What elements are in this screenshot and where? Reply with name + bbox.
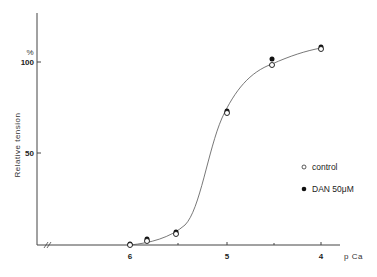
series-control [128,47,324,248]
x-tick-label-5: 5 [225,252,230,261]
chart-canvas: 100 50 % Relative tension 6 5 4 p Ca [0,0,377,277]
data-point [319,47,324,52]
x-axis-label: p Ca [344,252,363,261]
data-point [145,239,150,244]
x-tick-label-6: 6 [128,252,133,261]
data-point [270,57,275,62]
y-tick-label-50: 50 [25,149,34,158]
legend-label-control: control [312,162,338,172]
data-point [225,111,230,116]
series-dan [128,45,324,247]
legend: control DAN 50μM [302,162,354,194]
data-point [174,232,179,237]
open-circle-icon [302,165,306,169]
filled-circle-icon [302,187,307,192]
fit-curve [130,48,321,245]
y-tick-label-100: 100 [21,58,35,67]
y-axis-label: Relative tension [13,113,22,178]
x-tick-label-4: 4 [319,252,324,261]
y-unit-label: % [26,48,34,57]
data-point [270,63,275,68]
legend-label-dan: DAN 50μM [312,184,354,194]
data-point [128,243,133,248]
